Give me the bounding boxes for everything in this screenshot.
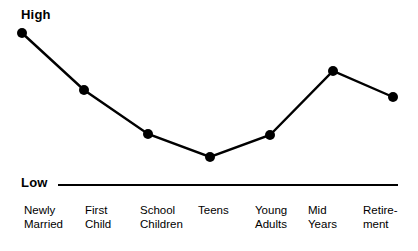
x-axis-label-line1: Mid bbox=[308, 204, 327, 216]
data-point-markers bbox=[17, 28, 398, 162]
x-axis-label-line2: Children bbox=[140, 217, 183, 231]
series-line bbox=[22, 33, 393, 157]
data-point-2 bbox=[143, 129, 153, 139]
x-axis-label-line2: Married bbox=[24, 217, 63, 231]
x-axis-label-line1: Young bbox=[255, 204, 287, 216]
x-axis-label-4: YoungAdults bbox=[255, 203, 287, 231]
x-axis-label-3: Teens bbox=[198, 203, 229, 231]
x-axis-label-line1: Newly bbox=[24, 204, 55, 216]
x-axis-label-2: SchoolChildren bbox=[140, 203, 183, 231]
x-axis-label-6: Retire-ment bbox=[363, 203, 398, 231]
chart-figure: High Low NewlyMarriedFirstChildSchoolChi… bbox=[0, 0, 418, 251]
x-axis-label-line2: Child bbox=[85, 217, 111, 231]
x-axis-label-line1: School bbox=[140, 204, 175, 216]
x-axis-label-line1: Retire- bbox=[363, 204, 398, 216]
x-axis-label-line2 bbox=[198, 217, 229, 231]
x-axis-label-line2: ment bbox=[363, 217, 398, 231]
data-point-6 bbox=[388, 92, 398, 102]
x-axis-label-line2: Years bbox=[308, 217, 337, 231]
data-point-0 bbox=[17, 28, 27, 38]
data-point-4 bbox=[265, 130, 275, 140]
x-axis-label-line1: First bbox=[85, 204, 107, 216]
x-axis-label-line2: Adults bbox=[255, 217, 287, 231]
data-point-3 bbox=[205, 152, 215, 162]
x-axis-label-5: MidYears bbox=[308, 203, 337, 231]
data-point-5 bbox=[328, 66, 338, 76]
data-point-1 bbox=[79, 85, 89, 95]
x-axis-label-1: FirstChild bbox=[85, 203, 111, 231]
x-axis-label-line1: Teens bbox=[198, 204, 229, 216]
x-axis-category-labels: NewlyMarriedFirstChildSchoolChildrenTeen… bbox=[0, 203, 418, 247]
x-axis-label-0: NewlyMarried bbox=[24, 203, 63, 231]
